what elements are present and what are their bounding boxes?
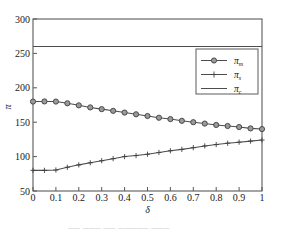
y-tick-label: 100 (15, 151, 30, 162)
x-tick-label: 0.2 (73, 192, 86, 203)
data-point-marker (133, 112, 138, 117)
y-tick-label: 150 (15, 117, 30, 128)
data-point-marker (65, 101, 70, 106)
data-point-marker (53, 99, 58, 104)
data-point-marker (53, 167, 58, 172)
series--m (30, 99, 264, 132)
y-tick-label: 50 (20, 186, 30, 197)
chart-svg: 50 100 150 200 250 300 π 0 (0, 0, 286, 232)
legend-marker-circle (211, 58, 216, 63)
data-point-marker (88, 160, 93, 165)
x-tick-label: 1 (260, 192, 265, 203)
data-point-marker (133, 153, 138, 158)
x-tick-label: 0.9 (233, 192, 246, 203)
chart-figure: 50 100 150 200 250 300 π 0 (0, 0, 286, 232)
x-tick-label: 0.3 (95, 192, 108, 203)
data-point-marker (76, 162, 81, 167)
data-point-marker (237, 124, 242, 129)
x-tick-group (33, 187, 262, 191)
data-point-marker (225, 141, 230, 146)
data-point-marker (30, 168, 35, 173)
y-tick-label: 200 (15, 82, 30, 93)
data-point-marker (65, 165, 70, 170)
data-point-marker (76, 103, 81, 108)
data-point-marker (191, 145, 196, 150)
data-point-marker (202, 121, 207, 126)
data-point-marker (156, 150, 161, 155)
data-point-marker (191, 120, 196, 125)
x-tick-label: 0.6 (164, 192, 177, 203)
data-point-marker (179, 147, 184, 152)
x-tick-label: 0.1 (50, 192, 63, 203)
x-axis-title: δ (145, 204, 150, 215)
y-tick-group (33, 19, 37, 191)
data-point-marker (42, 99, 47, 104)
data-point-marker (179, 118, 184, 123)
y-axis-title: π (2, 104, 13, 110)
caption-strip: ── ─── ── ───── ─── (0, 221, 286, 232)
data-point-marker (111, 156, 116, 161)
y-axis: 50 100 150 200 250 300 π (2, 14, 37, 197)
x-tick-label: 0.7 (187, 192, 200, 203)
data-point-marker (145, 152, 150, 157)
x-tick-label: 0.5 (141, 192, 154, 203)
data-point-marker (111, 108, 116, 113)
partial-caption: ── ─── ── ───── ─── (68, 224, 170, 232)
data-point-marker (237, 140, 242, 145)
y-tick-label: 300 (15, 14, 30, 25)
data-point-marker (30, 99, 35, 104)
data-point-marker (99, 158, 104, 163)
data-point-marker (259, 126, 264, 131)
data-point-marker (88, 105, 93, 110)
legend: πm πs πc (196, 49, 258, 95)
data-point-marker (225, 123, 230, 128)
data-point-marker (248, 139, 253, 144)
data-point-marker (122, 154, 127, 159)
data-point-marker (99, 107, 104, 112)
data-point-marker (168, 117, 173, 122)
y-tick-label: 250 (15, 48, 30, 59)
data-point-marker (145, 113, 150, 118)
data-point-marker (202, 143, 207, 148)
data-point-marker (156, 115, 161, 120)
data-point-marker (214, 142, 219, 147)
data-point-marker (168, 148, 173, 153)
data-point-marker (214, 122, 219, 127)
data-point-marker (42, 168, 47, 173)
legend-box (196, 49, 258, 94)
data-point-marker (248, 126, 253, 131)
data-point-marker (259, 137, 264, 142)
data-point-marker (122, 110, 127, 115)
x-tick-label: 0.4 (118, 192, 131, 203)
x-tick-label: 0.8 (210, 192, 223, 203)
x-tick-label: 0 (31, 192, 36, 203)
series--s (30, 137, 264, 172)
